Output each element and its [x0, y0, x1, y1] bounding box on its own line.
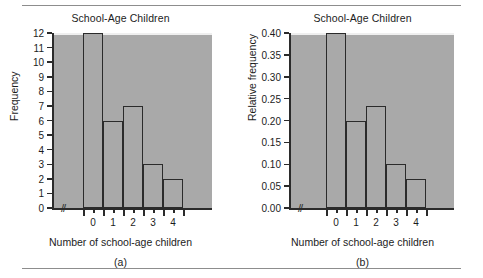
y-tick-label-a: 2	[38, 173, 44, 184]
x-tick-label-b: 3	[393, 217, 399, 228]
y-tick-label-a: 7	[38, 100, 44, 111]
panel-a: School-Age Children 01234567891011120123…	[0, 8, 241, 266]
y-tick-a	[47, 120, 52, 122]
y-tick-label-a: 1	[38, 188, 44, 199]
histogram-bar-b-3	[386, 164, 406, 208]
y-tick-b	[284, 142, 289, 144]
y-tick-a	[47, 149, 52, 151]
x-boundary-tick-b	[326, 209, 328, 216]
x-boundary-tick-b	[346, 209, 348, 216]
x-tick-b	[396, 209, 398, 213]
x-boundary-tick-a	[83, 209, 85, 216]
y-tick-label-b: 0.05	[262, 181, 281, 192]
x-axis-line-b	[289, 208, 454, 210]
top-divider-rule	[22, 5, 461, 6]
x-axis-break-a: //	[61, 203, 65, 214]
x-boundary-tick-b	[426, 209, 428, 216]
x-tick-label-b: 1	[353, 217, 359, 228]
x-boundary-tick-b	[406, 209, 408, 216]
y-tick-label-b: 0.20	[262, 115, 281, 126]
x-tick-a	[113, 209, 115, 213]
x-tick-a	[133, 209, 135, 213]
y-tick-label-a: 11	[34, 42, 44, 53]
histogram-bar-b-0	[326, 33, 346, 208]
x-tick-b	[376, 209, 378, 213]
x-boundary-tick-b	[386, 209, 388, 216]
y-tick-label-b: 0.35	[262, 49, 281, 60]
y-tick-b	[284, 98, 289, 100]
y-tick-label-b: 0.10	[262, 159, 281, 170]
histogram-bar-b-1	[346, 121, 366, 209]
y-tick-label-a: 6	[38, 115, 44, 126]
y-tick-label-a: 3	[38, 159, 44, 170]
y-tick-a	[47, 61, 52, 63]
x-tick-label-a: 1	[110, 217, 116, 228]
x-boundary-tick-a	[103, 209, 105, 216]
x-tick-label-a: 0	[90, 217, 96, 228]
y-axis-line-a	[52, 33, 54, 209]
x-axis-break-b: //	[298, 203, 302, 214]
y-tick-b	[284, 76, 289, 78]
chart-title-b: School-Age Children	[242, 12, 483, 24]
x-tick-label-b: 2	[373, 217, 379, 228]
x-boundary-tick-a	[183, 209, 185, 216]
y-tick-a	[47, 105, 52, 107]
x-axis-title-a: Number of school-age children	[0, 236, 241, 248]
y-tick-a	[47, 32, 52, 34]
y-tick-b	[284, 32, 289, 34]
y-axis-line-b	[289, 33, 291, 209]
y-tick-a	[47, 91, 52, 93]
x-boundary-tick-a	[163, 209, 165, 216]
y-tick-label-a: 5	[38, 130, 44, 141]
y-tick-a	[47, 193, 52, 195]
x-tick-label-a: 4	[170, 217, 176, 228]
x-tick-b	[336, 209, 338, 213]
y-tick-b	[284, 54, 289, 56]
x-tick-label-b: 4	[413, 217, 419, 228]
y-tick-a	[47, 47, 52, 49]
y-tick-label-b: 0.25	[262, 93, 281, 104]
y-tick-label-a: 9	[38, 71, 44, 82]
x-tick-a	[153, 209, 155, 213]
x-tick-a	[93, 209, 95, 213]
y-tick-b	[284, 164, 289, 166]
x-boundary-tick-b	[366, 209, 368, 216]
panel-b: School-Age Children 0.000.050.100.150.20…	[242, 8, 483, 266]
histogram-bar-a-0	[83, 33, 103, 208]
y-tick-a	[47, 134, 52, 136]
y-tick-label-a: 10	[33, 57, 44, 68]
x-tick-label-a: 2	[130, 217, 136, 228]
y-tick-a	[47, 178, 52, 180]
y-tick-label-b: 0.00	[262, 203, 281, 214]
histogram-bar-a-3	[143, 164, 163, 208]
y-tick-label-b: 0.40	[262, 28, 281, 39]
x-tick-b	[416, 209, 418, 213]
panel-letter-b: (b)	[242, 256, 483, 268]
histogram-bar-a-4	[163, 179, 183, 208]
histogram-bar-b-4	[406, 179, 426, 208]
y-tick-a	[47, 76, 52, 78]
y-tick-label-a: 4	[38, 144, 44, 155]
x-tick-label-a: 3	[150, 217, 156, 228]
bottom-divider-rule	[22, 268, 461, 269]
x-tick-a	[173, 209, 175, 213]
y-tick-b	[284, 185, 289, 187]
chart-title-a: School-Age Children	[0, 12, 241, 24]
x-boundary-tick-a	[123, 209, 125, 216]
y-tick-label-a: 12	[33, 28, 44, 39]
x-tick-b	[356, 209, 358, 213]
y-tick-label-b: 0.15	[262, 137, 281, 148]
histogram-bar-b-2	[366, 106, 386, 208]
y-tick-a	[47, 207, 52, 209]
panel-letter-a: (a)	[0, 256, 241, 268]
y-tick-label-a: 0	[38, 203, 44, 214]
x-axis-title-b: Number of school-age children	[242, 236, 483, 248]
y-tick-label-b: 0.30	[262, 71, 281, 82]
histogram-bar-a-2	[123, 106, 143, 208]
y-tick-b	[284, 120, 289, 122]
x-axis-line-a	[52, 208, 212, 210]
histogram-bar-a-1	[103, 121, 123, 209]
x-tick-label-b: 0	[333, 217, 339, 228]
y-tick-a	[47, 164, 52, 166]
upper-gridline-b	[290, 33, 454, 35]
